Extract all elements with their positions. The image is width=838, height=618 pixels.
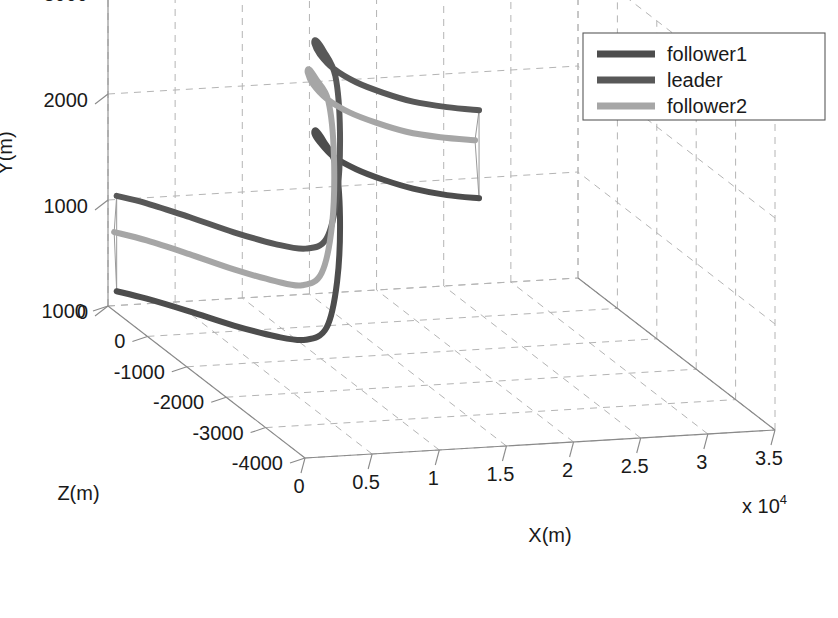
grid-wall-left-h [108, 172, 578, 200]
grid-wall-left-h [108, 66, 578, 94]
tick-label-z: 0 [114, 330, 125, 352]
axis-title-z: Z(m) [57, 482, 99, 504]
tick-label-z: -3000 [192, 422, 243, 444]
tick-label-y: 3000 [44, 0, 89, 5]
tick-label-z: 1000 [42, 300, 87, 322]
tick-label-x: 0.5 [352, 471, 380, 493]
tick-label-y: 1000 [44, 195, 89, 217]
tick-z [132, 336, 147, 341]
tick-label-x: 2.5 [621, 455, 649, 477]
tick-x [570, 442, 574, 457]
tick-y [95, 306, 108, 316]
tick-label-x: 1 [428, 467, 439, 489]
plot-canvas: 0100020003000Y(m)-4000-3000-2000-1000010… [0, 0, 838, 618]
tick-y [95, 94, 108, 104]
tick-label-x: 1.5 [486, 463, 514, 485]
trajectory-follower1 [117, 130, 479, 340]
figure-3d-trajectory-plot: 0100020003000Y(m)-4000-3000-2000-1000010… [0, 0, 838, 618]
tick-label-z: -4000 [232, 452, 283, 474]
axis-title-y: Y(m) [0, 131, 16, 174]
grid-floor-z [187, 339, 657, 367]
tick-x [704, 434, 708, 449]
tick-z [93, 306, 108, 311]
grid-floor-z [226, 369, 696, 397]
tick-z [290, 458, 305, 463]
grid-wall-left-h [108, 278, 578, 306]
tick-x [435, 450, 439, 465]
tick-x [771, 430, 775, 445]
legend-label-leader: leader [667, 69, 723, 91]
tick-z [211, 397, 226, 402]
tick-label-z: -1000 [114, 361, 165, 383]
tick-z [251, 428, 266, 433]
tick-z [172, 367, 187, 372]
tick-label-x: 0 [293, 475, 304, 497]
series-connector-end [475, 140, 479, 198]
axis-title-x: X(m) [528, 524, 571, 546]
legend-label-follower2: follower2 [667, 95, 747, 117]
grid-floor-x [377, 290, 574, 442]
series-connector-end [475, 110, 479, 140]
tick-x [637, 438, 641, 453]
tick-label-y: 2000 [44, 89, 89, 111]
tick-x [368, 454, 372, 469]
tick-label-x: 3.5 [755, 447, 783, 469]
legend-label-follower1: follower1 [667, 43, 747, 65]
trajectory-leader [117, 40, 479, 249]
tick-label-x: 3 [696, 451, 707, 473]
tick-x [502, 446, 506, 461]
tick-y [95, 200, 108, 210]
tick-label-x: 2 [562, 459, 573, 481]
tick-x [301, 458, 305, 473]
grid-floor-z [266, 400, 736, 428]
axis-multiplier-x: x 104 [742, 492, 787, 517]
tick-label-z: -2000 [153, 391, 204, 413]
